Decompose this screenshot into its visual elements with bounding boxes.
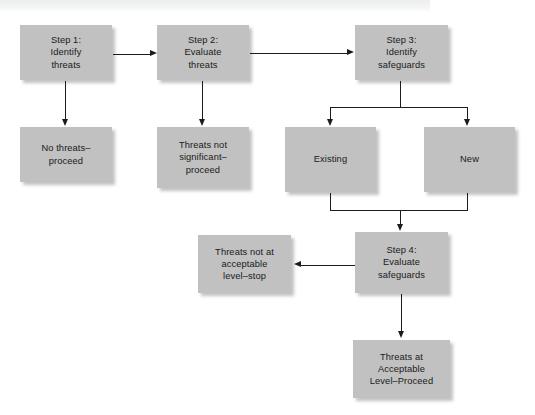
edge-merge-to-step4-arrowhead [397,224,403,231]
node-threats-at-acceptable-level-proceed[interactable]: Threats at Acceptable Level–Proceed [353,340,450,398]
edge-merge-to-step4-line [400,210,401,225]
node-no-threats-proceed[interactable]: No threats– proceed [20,127,112,182]
edge-step4-to-threats-acceptable-arrowhead [398,331,404,338]
node-threats-at-acceptable-level-proceed-label: Threats at Acceptable Level–Proceed [353,351,450,388]
node-new[interactable]: New [424,127,515,192]
edge-step2-to-threats-not-significant-line [202,81,203,120]
edge-existing-to-merge-line [330,193,331,211]
edge-merge-bus [330,210,468,211]
edge-step1-to-no-threats-line [65,81,66,120]
node-threats-not-at-acceptable-level-stop-label: Threats not at acceptable level–stop [198,246,291,283]
edge-step1-to-step2-line [113,54,151,55]
edge-step4-to-threats-not-acceptable-line [300,265,355,266]
node-step3[interactable]: Step 3: Identify safeguards [355,25,448,80]
node-threats-not-significant-proceed[interactable]: Threats not significant– proceed [157,127,249,188]
flowchart-canvas: Step 1: Identify threats Step 2: Evaluat… [0,0,535,415]
node-existing[interactable]: Existing [285,127,376,192]
node-step4-label: Step 4: Evaluate safeguards [355,244,448,281]
edge-split-bus [330,107,468,108]
edge-step1-to-step2-arrowhead [150,50,157,56]
node-threats-not-at-acceptable-level-stop[interactable]: Threats not at acceptable level–stop [198,235,291,293]
top-banner-strip [0,0,430,11]
edge-step2-to-threats-not-significant-arrowhead [199,119,205,126]
node-step1[interactable]: Step 1: Identify threats [20,25,112,80]
edge-split-to-new-arrowhead [464,119,470,126]
edge-step4-to-threats-acceptable-line [401,294,402,332]
edge-split-to-existing-arrowhead [327,119,333,126]
edge-step2-to-step3-arrowhead [347,49,354,55]
node-step2[interactable]: Step 2: Evaluate threats [157,25,249,80]
node-no-threats-proceed-label: No threats– proceed [20,142,112,166]
edge-step2-to-step3-line [250,53,348,54]
node-step1-label: Step 1: Identify threats [20,34,112,71]
node-threats-not-significant-proceed-label: Threats not significant– proceed [157,139,249,176]
node-existing-label: Existing [285,153,376,165]
edge-step1-to-no-threats-arrowhead [62,119,68,126]
node-step3-label: Step 3: Identify safeguards [355,34,448,71]
edge-new-to-merge-line [467,193,468,211]
node-new-label: New [424,153,515,165]
edge-step4-to-threats-not-acceptable-arrowhead [294,261,301,267]
node-step2-label: Step 2: Evaluate threats [157,34,249,71]
node-step4[interactable]: Step 4: Evaluate safeguards [355,232,448,293]
edge-step3-to-split-stem [400,81,401,108]
